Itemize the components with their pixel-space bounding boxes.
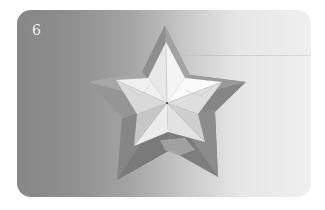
star-center-point xyxy=(166,102,168,104)
canvas: 6 xyxy=(0,0,325,210)
origami-star-illustration xyxy=(0,0,325,210)
